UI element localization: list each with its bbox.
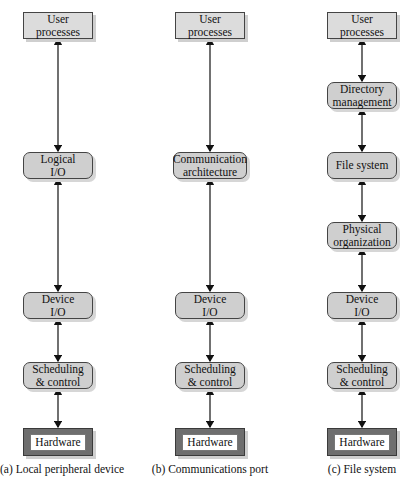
hardware-label: Hardware [30, 434, 85, 451]
node-logical-io-a: LogicalI/O [23, 152, 93, 179]
node-file-system-c: File system [327, 152, 397, 179]
label-line2: organization [333, 236, 390, 249]
node-user-processes-a: Userprocesses [23, 12, 93, 39]
hardware-label: Hardware [182, 434, 237, 451]
node-device-io-a: DeviceI/O [23, 292, 93, 319]
node-user-processes-c: Userprocesses [327, 12, 397, 39]
label-line2: & control [336, 376, 388, 389]
hardware-label: Hardware [334, 434, 389, 451]
label-line1: Physical [333, 223, 390, 236]
label-line2: I/O [346, 306, 379, 319]
node-communication-architecture-b: Communicationarchitecture [173, 152, 247, 179]
label-line1: Scheduling [32, 363, 84, 376]
node-hardware-c: Hardware [327, 428, 397, 456]
node-device-io-b: DeviceI/O [175, 292, 245, 319]
node-hardware-b: Hardware [175, 428, 245, 456]
node-scheduling-control-c: Scheduling& control [327, 362, 397, 389]
label-line2: processes [36, 26, 80, 39]
label-line1: Device [194, 293, 227, 306]
label-line2: architecture [173, 166, 247, 179]
node-scheduling-control-a: Scheduling& control [23, 362, 93, 389]
caption-c: (c) File system [312, 463, 410, 475]
label-line1: Device [42, 293, 75, 306]
label-line2: processes [188, 26, 232, 39]
label-line1: Device [346, 293, 379, 306]
node-hardware-a: Hardware [23, 428, 93, 456]
node-device-io-c: DeviceI/O [327, 292, 397, 319]
label-line1: Communication [173, 153, 247, 166]
label-line2: management [333, 96, 392, 109]
label-line1: User [340, 13, 384, 26]
label-line1: Scheduling [184, 363, 236, 376]
node-directory-management-c: Directorymanagement [327, 82, 397, 109]
io-organization-diagram: Userprocesses LogicalI/O DeviceI/O Sched… [0, 0, 410, 491]
label-line1: Scheduling [336, 363, 388, 376]
label-line1: Logical [40, 153, 75, 166]
label-line2: I/O [194, 306, 227, 319]
label-line2: I/O [42, 306, 75, 319]
label-line2: & control [32, 376, 84, 389]
label-line2: & control [184, 376, 236, 389]
label-line1: Directory [333, 83, 392, 96]
node-scheduling-control-b: Scheduling& control [175, 362, 245, 389]
node-physical-organization-c: Physicalorganization [327, 222, 397, 249]
label-line1: File system [336, 159, 389, 172]
caption-a: (a) Local peripheral device [0, 463, 118, 475]
caption-b: (b) Communications port [150, 463, 270, 475]
label-line1: User [188, 13, 232, 26]
label-line1: User [36, 13, 80, 26]
label-line2: I/O [40, 166, 75, 179]
label-line2: processes [340, 26, 384, 39]
node-user-processes-b: Userprocesses [175, 12, 245, 39]
